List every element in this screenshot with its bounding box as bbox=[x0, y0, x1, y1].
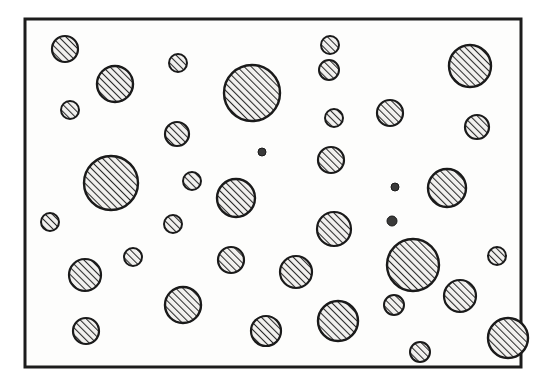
hatched-circle-c27 bbox=[280, 256, 312, 288]
hatched-circle-c16 bbox=[428, 169, 466, 207]
hatched-circle-c01 bbox=[52, 36, 78, 62]
hatched-circle-c12 bbox=[465, 115, 489, 139]
hatched-circle-c18 bbox=[391, 183, 399, 191]
hatched-circle-c04 bbox=[224, 65, 280, 121]
hatched-circle-c15 bbox=[318, 147, 344, 173]
hatched-circle-c28 bbox=[387, 239, 439, 291]
hatched-circle-c36 bbox=[410, 342, 430, 362]
hatched-circle-c20 bbox=[41, 213, 59, 231]
hatched-circle-c08 bbox=[61, 101, 79, 119]
hatched-circle-c02 bbox=[169, 54, 187, 72]
hatched-circle-c25 bbox=[218, 247, 244, 273]
hatched-circle-c05 bbox=[321, 36, 339, 54]
hatched-circle-c22 bbox=[317, 212, 351, 246]
hatched-circle-c06 bbox=[449, 45, 491, 87]
hatched-circle-c24 bbox=[124, 248, 142, 266]
hatched-circle-c32 bbox=[384, 295, 404, 315]
hatched-circle-c31 bbox=[165, 287, 201, 323]
hatched-circle-c33 bbox=[73, 318, 99, 344]
hatched-circle-c19 bbox=[217, 179, 255, 217]
hatched-circle-c26 bbox=[69, 259, 101, 291]
hatched-circle-c23 bbox=[387, 216, 397, 226]
hatched-circle-c37 bbox=[488, 318, 528, 358]
hatched-circle-c14 bbox=[84, 156, 138, 210]
hatched-circle-c07 bbox=[319, 60, 339, 80]
hatched-circle-c34 bbox=[251, 316, 281, 346]
hatched-circle-c13 bbox=[258, 148, 266, 156]
figure-container bbox=[0, 0, 546, 386]
hatched-circle-c35 bbox=[318, 301, 358, 341]
hatched-circle-c10 bbox=[377, 100, 403, 126]
hatched-circle-c17 bbox=[183, 172, 201, 190]
hatched-circle-c09 bbox=[325, 109, 343, 127]
hatched-circle-c21 bbox=[164, 215, 182, 233]
hatched-circle-c29 bbox=[488, 247, 506, 265]
hatched-circle-c03 bbox=[97, 66, 133, 102]
hatched-circle-c11 bbox=[165, 122, 189, 146]
hatched-circle-c30 bbox=[444, 280, 476, 312]
hatched-circles-figure bbox=[0, 0, 546, 386]
